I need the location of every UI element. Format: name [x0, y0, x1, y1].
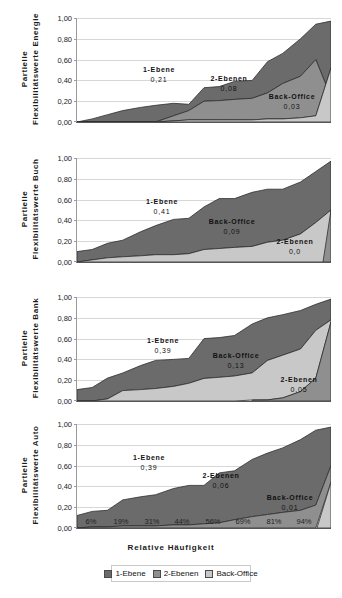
annotation-value: 0,41 [132, 208, 192, 215]
legend-label: Back-Office [216, 569, 257, 578]
annotation-2-ebenen: 2-Ebenen 0,08 [197, 75, 261, 92]
annotation-value: 0,21 [129, 76, 189, 83]
y-ticks-auto: 1,00 0,80 0,60 0,40 0,20 0,00 [46, 424, 72, 528]
annotation-label: 2-Ebenen [210, 75, 247, 82]
annotation-value: 0,06 [189, 482, 253, 489]
panel-energie: Partielle Flexibilitätswerte Energie 1,0… [0, 6, 342, 132]
y-tick: 0,80 [57, 174, 72, 183]
y-tick: 0,60 [57, 55, 72, 64]
legend-swatch-back-office [205, 570, 213, 578]
y-tick: 0,80 [57, 313, 72, 322]
annotation-2-ebenen: 2-Ebenen 0,06 [189, 472, 253, 489]
annotation-value: 0,01 [253, 504, 327, 511]
annotation-label: Back-Office [267, 494, 314, 501]
y-axis-title-line1: Partielle [19, 159, 30, 260]
annotation-value: 0,39 [119, 464, 179, 471]
y-tick: 0,20 [57, 376, 72, 385]
y-tick: 0,80 [57, 34, 72, 43]
y-axis-title-line1: Partielle [19, 298, 30, 399]
x-tick: 31% [144, 517, 159, 526]
y-tick: 0,00 [57, 118, 72, 127]
annotation-label: 2-Ebenen [280, 376, 317, 383]
y-tick: 1,00 [57, 420, 72, 429]
annotation-2-ebenen: 2-Ebenen 0,05 [267, 376, 331, 393]
annotation-value: 0,09 [195, 228, 269, 235]
panel-buch: Partielle Flexibilitätswerte Buch 1,00 0… [0, 146, 342, 272]
annotation-back-office: Back-Office 0,13 [199, 352, 273, 369]
plot-area-bank: 1-Ebene 0,39 Back-Office 0,13 2-Ebenen 0… [76, 297, 331, 402]
chart-legend: 1-Ebene 2-Ebenen Back-Office [111, 565, 251, 582]
y-axis-title-line1: Partielle [19, 13, 30, 125]
x-tick: 19% [113, 517, 128, 526]
annotation-value: 0,13 [199, 362, 273, 369]
legend-item-back-office[interactable]: Back-Office [205, 569, 257, 578]
y-tick: 1,00 [57, 293, 72, 302]
legend-swatch-1-ebene [104, 570, 112, 578]
y-tick: 0,60 [57, 461, 72, 470]
legend-item-2-ebenen[interactable]: 2-Ebenen [153, 569, 199, 578]
x-tick: 6% [86, 517, 97, 526]
x-tick: 69% [235, 517, 250, 526]
y-tick: 0,00 [57, 258, 72, 267]
annotation-value: 0,05 [267, 386, 331, 393]
annotation-2-ebenen: 2-Ebenen 0,0 [263, 238, 327, 255]
plot-area-auto: 1-Ebene 0,39 2-Ebenen 0,06 Back-Office 0… [76, 424, 331, 529]
y-tick: 0,20 [57, 503, 72, 512]
legend-label: 2-Ebenen [164, 569, 199, 578]
annotation-label: Back-Office [209, 218, 256, 225]
annotation-label: 2-Ebenen [276, 238, 313, 245]
x-axis-title: Relative Häufigkeit [0, 543, 342, 552]
annotation-1-ebene: 1-Ebene 0,39 [133, 337, 193, 354]
annotation-1-ebene: 1-Ebene 0,39 [119, 454, 179, 471]
y-axis-title-line2: Flexibilitätswerte Bank [30, 298, 41, 399]
y-axis-title-line2: Flexibilitätswerte Buch [30, 159, 41, 260]
panel-bank: Partielle Flexibilitätswerte Bank 1,00 0… [0, 285, 342, 411]
stacked-area-chart-figure: Partielle Flexibilitätswerte Energie 1,0… [0, 0, 342, 598]
y-tick: 0,00 [57, 397, 72, 406]
annotation-back-office: Back-Office 0,03 [255, 93, 329, 110]
y-axis-title-line2: Flexibilitätswerte Energie [30, 13, 41, 125]
annotation-value: 0,08 [197, 85, 261, 92]
y-tick: 1,00 [57, 14, 72, 23]
y-tick: 0,40 [57, 216, 72, 225]
annotation-label: Back-Office [213, 352, 260, 359]
y-ticks-bank: 1,00 0,80 0,60 0,40 0,20 0,00 [46, 297, 72, 401]
y-tick: 0,20 [57, 97, 72, 106]
y-tick: 0,60 [57, 334, 72, 343]
annotation-back-office: Back-Office 0,09 [195, 218, 269, 235]
annotation-label: 2-Ebenen [202, 472, 239, 479]
annotation-value: 0,0 [263, 248, 327, 255]
annotation-back-office: Back-Office 0,01 [253, 494, 327, 511]
plot-area-energie: 1-Ebene 0,21 2-Ebenen 0,08 Back-Office 0… [76, 18, 331, 123]
y-ticks-energie: 1,00 0,80 0,60 0,40 0,20 0,00 [46, 18, 72, 122]
x-axis-ticks: 6% 19% 31% 44% 56% 69% 81% 94% [0, 517, 342, 531]
y-tick: 0,80 [57, 440, 72, 449]
y-ticks-buch: 1,00 0,80 0,60 0,40 0,20 0,00 [46, 158, 72, 262]
y-tick: 0,40 [57, 482, 72, 491]
legend-swatch-2-ebenen [153, 570, 161, 578]
annotation-label: Back-Office [269, 93, 316, 100]
x-tick: 94% [296, 517, 311, 526]
y-axis-title-line1: Partielle [19, 426, 30, 525]
annotation-label: 1-Ebene [146, 198, 178, 205]
annotation-label: 1-Ebene [147, 337, 179, 344]
plot-area-buch: 1-Ebene 0,41 Back-Office 0,09 2-Ebenen 0… [76, 158, 331, 263]
x-tick: 81% [266, 517, 281, 526]
y-tick: 0,40 [57, 76, 72, 85]
annotation-label: 1-Ebene [143, 66, 175, 73]
annotation-label: 1-Ebene [133, 454, 165, 461]
y-tick: 0,60 [57, 195, 72, 204]
annotation-value: 0,39 [133, 347, 193, 354]
legend-label: 1-Ebene [115, 569, 145, 578]
annotation-1-ebene: 1-Ebene 0,21 [129, 66, 189, 83]
y-tick: 0,40 [57, 355, 72, 364]
y-axis-title-line2: Flexibilitätswerte Auto [30, 426, 41, 525]
annotation-1-ebene: 1-Ebene 0,41 [132, 198, 192, 215]
annotation-value: 0,03 [255, 103, 329, 110]
x-tick: 56% [205, 517, 220, 526]
legend-item-1-ebene[interactable]: 1-Ebene [104, 569, 145, 578]
y-tick: 1,00 [57, 154, 72, 163]
y-tick: 0,20 [57, 237, 72, 246]
x-tick: 44% [174, 517, 189, 526]
